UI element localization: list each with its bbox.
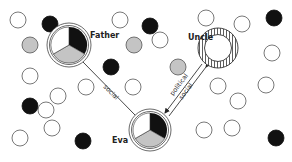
minor-node-white [230,93,246,109]
eva-pie [133,113,167,147]
minor-node-black [75,133,91,149]
label-eva: Eva [112,136,128,145]
minor-node-black [268,130,284,146]
node-eva: Eva [112,109,171,151]
minor-node-white [10,12,26,28]
minor-node-gray [126,37,142,53]
minor-node-white [22,68,38,84]
label-father: Father [90,31,119,40]
minor-node-white [12,130,28,146]
father-pie [51,27,87,63]
minor-node-white [258,77,274,93]
minor-node-white [196,122,212,138]
minor-node-white [44,120,60,136]
minor-node-white [78,79,94,95]
label-uncle: Uncle [188,33,214,42]
node-uncle: Uncle [188,28,238,68]
diagram-svg: social political social Father Uncle [0,0,292,162]
minor-node-white [210,78,226,94]
minor-node-gray [22,37,38,53]
minor-node-white [224,120,240,136]
minor-node-black [103,59,119,75]
edge-label-social-father: social [102,83,121,102]
minor-node-white [50,88,66,104]
minor-node-white [152,32,168,48]
minor-node-black [22,98,38,114]
network-diagram: social political social Father Uncle [0,0,292,162]
minor-node-white [112,12,128,28]
minor-node-black [266,10,282,26]
minor-node-white [234,16,250,32]
minor-node-white [198,10,214,26]
minor-node-white [38,102,54,118]
minor-node-white [125,79,141,95]
minor-node-black [142,18,158,34]
minor-node-white [264,45,280,61]
